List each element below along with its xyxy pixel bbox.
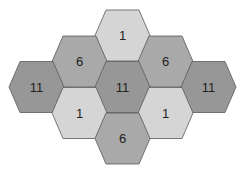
hex-label: 1: [76, 106, 83, 121]
hex-label: 11: [116, 80, 130, 95]
hex-label: 1: [119, 28, 126, 43]
hexagon-grid: 166111111116: [0, 0, 245, 174]
hex-label: 6: [76, 54, 83, 69]
hex-label: 11: [30, 80, 44, 95]
hex-cell: 6: [95, 113, 150, 164]
hex-label: 6: [162, 54, 169, 69]
hex-label: 1: [162, 106, 169, 121]
hex-label: 6: [119, 131, 126, 146]
hex-label: 11: [202, 80, 216, 95]
